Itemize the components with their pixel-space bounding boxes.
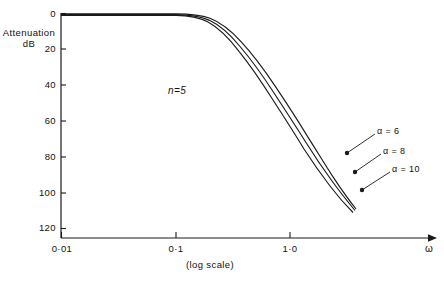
curve-label-alpha-8: α = 8 xyxy=(383,146,405,156)
ytick-label-40: 40 xyxy=(32,79,56,90)
leader-dot-alpha-8 xyxy=(353,170,357,174)
order-annotation: n=5 xyxy=(168,85,186,96)
leader-alpha-6 xyxy=(347,134,375,153)
x-axis-arrowhead xyxy=(428,234,437,242)
xtick-label-1-0: 1·0 xyxy=(272,243,308,254)
curve-alpha-10 xyxy=(61,15,353,212)
x-axis-symbol-omega: ω xyxy=(425,243,433,254)
y-axis-ticks xyxy=(61,14,66,229)
xtick-label-0-01: 0·01 xyxy=(42,243,82,254)
x-axis-caption: (log scale) xyxy=(170,259,250,270)
leader-dot-alpha-6 xyxy=(345,151,349,155)
ytick-label-60: 60 xyxy=(32,115,56,126)
chart-figure: 0 20 40 60 80 100 120 Attenuation dB 0·0… xyxy=(0,0,444,285)
ytick-label-80: 80 xyxy=(32,151,56,162)
leader-alpha-8 xyxy=(355,154,381,172)
xtick-label-0-1: 0·1 xyxy=(158,243,194,254)
x-axis-ticks xyxy=(62,232,291,238)
ytick-label-0: 0 xyxy=(40,8,56,19)
leader-dot-alpha-10 xyxy=(360,188,364,192)
curve-alpha-6 xyxy=(61,14,356,209)
curve-label-leaders xyxy=(345,134,390,192)
y-axis-title-line1: Attenuation xyxy=(0,27,58,38)
y-axis-title-line2: dB xyxy=(0,38,58,49)
leader-alpha-10 xyxy=(362,172,390,190)
ytick-label-120: 120 xyxy=(25,222,56,233)
curve-alpha-8 xyxy=(61,15,355,211)
curve-label-alpha-6: α = 6 xyxy=(377,126,399,136)
curve-label-alpha-10: α = 10 xyxy=(392,164,420,174)
ytick-label-100: 100 xyxy=(25,187,56,198)
curve-group xyxy=(61,14,356,213)
